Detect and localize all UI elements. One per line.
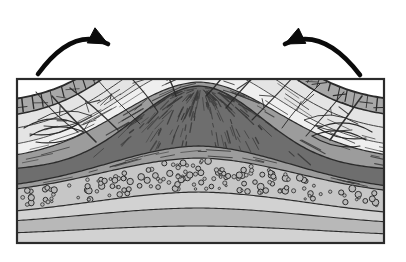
clast	[108, 194, 111, 197]
clast	[226, 173, 231, 178]
clast	[176, 174, 180, 178]
clast	[223, 181, 227, 185]
clast	[241, 189, 243, 191]
clast	[187, 172, 193, 178]
clast	[319, 193, 322, 196]
clast	[268, 180, 272, 184]
clast	[292, 189, 296, 193]
clast	[218, 187, 220, 189]
clast	[46, 200, 50, 204]
clast	[249, 165, 253, 169]
clast	[296, 174, 303, 181]
clast	[209, 184, 214, 189]
clast	[242, 181, 247, 186]
clast	[21, 195, 25, 199]
clast	[329, 190, 332, 193]
clast	[162, 161, 167, 166]
clast	[77, 196, 80, 199]
clast	[343, 199, 348, 204]
clast	[156, 185, 161, 190]
clast	[241, 167, 247, 173]
clast	[121, 176, 126, 181]
clast	[253, 180, 258, 185]
schistosity-line	[194, 117, 195, 121]
clast	[137, 183, 142, 188]
clast	[149, 185, 152, 188]
clast	[158, 179, 162, 183]
cross-section-body	[0, 0, 406, 262]
clast	[271, 174, 276, 179]
clast	[339, 190, 344, 195]
clast	[194, 188, 197, 191]
clast	[117, 185, 120, 188]
clast	[193, 172, 197, 176]
clast	[51, 187, 57, 193]
clast	[196, 166, 201, 171]
clast	[200, 159, 203, 162]
clast	[99, 181, 103, 185]
clast	[112, 177, 118, 183]
clast	[284, 173, 287, 176]
clast	[138, 174, 145, 181]
clast	[110, 184, 115, 189]
clast	[214, 168, 218, 172]
clast	[369, 196, 375, 202]
caprock-cross-joint	[306, 82, 318, 83]
clast	[126, 187, 131, 192]
clast	[244, 173, 248, 177]
clast	[302, 187, 306, 191]
clast	[167, 170, 173, 176]
clast	[109, 178, 112, 181]
clast	[308, 194, 311, 197]
clast	[25, 203, 29, 207]
schistosity-line	[185, 125, 186, 130]
clast	[372, 191, 377, 196]
clast	[144, 177, 150, 183]
clast	[68, 184, 71, 187]
clast	[245, 189, 251, 195]
clast	[304, 198, 306, 200]
clast	[25, 188, 31, 194]
clast	[95, 190, 99, 194]
clast	[355, 198, 358, 201]
clast	[363, 198, 368, 203]
clast	[50, 197, 53, 200]
clast	[122, 171, 127, 176]
geologic-cross-section-svg: left compressional forceright compressio…	[0, 0, 406, 262]
clast	[203, 177, 206, 180]
clast	[250, 168, 254, 172]
clast	[287, 178, 291, 182]
clast	[85, 184, 90, 189]
clast	[146, 168, 151, 173]
clast	[260, 172, 265, 177]
clast	[205, 187, 208, 190]
clast	[236, 172, 242, 178]
clast	[176, 165, 180, 169]
clast	[219, 176, 222, 179]
clast	[171, 163, 175, 167]
clast	[310, 196, 315, 201]
clast	[278, 189, 282, 193]
clast	[127, 178, 133, 184]
clast	[153, 173, 159, 179]
clast	[232, 175, 236, 179]
clast	[87, 198, 90, 201]
clast	[349, 185, 356, 192]
clast	[212, 177, 216, 181]
clast	[192, 183, 195, 186]
clast	[258, 191, 261, 194]
clast	[86, 178, 90, 182]
clast	[358, 197, 360, 199]
clast	[199, 180, 204, 185]
clast	[205, 158, 212, 165]
clast	[184, 170, 188, 174]
clast	[167, 181, 171, 185]
clast	[51, 200, 53, 202]
clast	[117, 192, 122, 197]
clast	[284, 186, 288, 190]
clast	[220, 168, 224, 172]
clast	[191, 164, 195, 168]
clast	[312, 184, 315, 187]
clast	[28, 195, 34, 201]
fracture-splay	[60, 106, 61, 114]
